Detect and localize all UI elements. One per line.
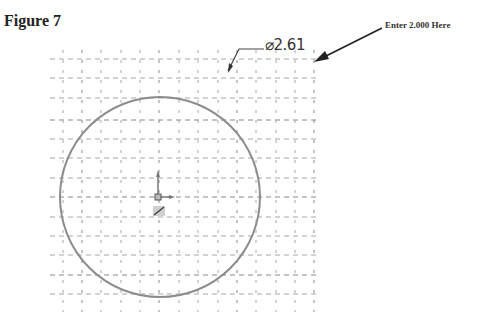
dimension-leader [228, 49, 264, 71]
diameter-dimension[interactable]: ⌀2.61 [265, 36, 305, 54]
sketch-grid [50, 50, 320, 312]
sketch-relation-icon [153, 206, 165, 216]
leader-arrowhead-icon [228, 63, 233, 73]
origin-icon [155, 170, 175, 200]
sketch-canvas[interactable] [0, 0, 490, 327]
callout-arrow [314, 28, 382, 62]
